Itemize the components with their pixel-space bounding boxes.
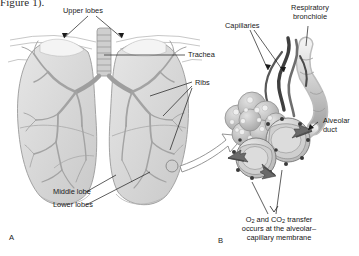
- caption-and-co2: and CO: [255, 215, 283, 224]
- panel-a-artwork: [8, 16, 202, 205]
- panel-label-b: B: [218, 236, 223, 245]
- caption-transfer: transfer: [285, 215, 312, 224]
- label-trachea: Trachea: [188, 51, 215, 60]
- label-upper-lobes: Upper lobes: [63, 7, 103, 16]
- label-ribs: Ribs: [195, 79, 210, 88]
- panel-label-a: A: [9, 233, 14, 242]
- label-respiratory-bronchiole: Respiratory bronchiole: [281, 4, 339, 21]
- left-apex: [40, 39, 84, 56]
- caption-line-3: capillary membrane: [214, 234, 344, 243]
- right-lung-body: [109, 41, 188, 205]
- caption-co2-sub: 2: [282, 218, 285, 224]
- right-apex: [122, 39, 166, 56]
- label-middle-lobe: Middle lobe: [53, 188, 91, 197]
- panel-a-arrowheads: [62, 33, 124, 38]
- panel-b-artwork: [225, 26, 325, 214]
- figure-respiratory-system: Figure 1).: [0, 0, 359, 256]
- caption-o2-sub: 2: [251, 218, 254, 224]
- label-lower-lobes: Lower lobes: [53, 201, 93, 210]
- gas-exchange-caption: O2 and CO2 transfer occurs at the alveol…: [214, 216, 344, 242]
- label-capillaries: Capillaries: [225, 22, 260, 31]
- label-alveolar-duct: Alveolar duct: [323, 117, 357, 134]
